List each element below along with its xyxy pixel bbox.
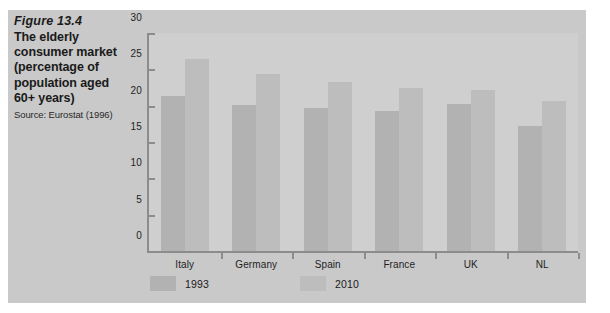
bar-germany-2010: [256, 74, 280, 251]
bar-nl-1993: [518, 126, 542, 251]
bar-italy-2010: [185, 59, 209, 251]
figure-caption: Figure 13.4 The elderly consumer market …: [14, 14, 126, 121]
bar-uk-1993: [447, 104, 471, 251]
legend-label-2010: 2010: [335, 278, 359, 290]
y-axis-tick-labels: 051015202530: [126, 18, 142, 236]
x-axis-label-italy: Italy: [149, 259, 221, 271]
x-axis-category-labels: ItalyGermanySpainFranceUKNL: [149, 259, 578, 275]
x-axis-label-uk: UK: [435, 259, 507, 271]
y-axis-tick-label: 15: [130, 122, 142, 132]
y-axis-tick-label: 20: [130, 86, 142, 96]
bar-spain-1993: [304, 108, 328, 251]
bar-italy-1993: [161, 96, 185, 252]
bar-uk-2010: [471, 90, 495, 251]
y-axis-tick-label: 10: [130, 158, 142, 168]
x-axis-label-spain: Spain: [292, 259, 364, 271]
x-axis-label-france: France: [364, 259, 436, 271]
bars-layer: [149, 33, 578, 251]
figure-number: Figure 13.4: [14, 14, 126, 29]
legend-entry-1993: 1993: [150, 276, 209, 291]
legend-entry-2010: 2010: [300, 276, 359, 291]
chart-plot-area: 051015202530 ItalyGermanySpainFranceUKNL: [126, 18, 578, 268]
figure-root: Figure 13.4 The elderly consumer market …: [0, 0, 610, 313]
bar-nl-2010: [542, 101, 566, 251]
x-axis-line: [147, 251, 578, 253]
figure-source: Source: Eurostat (1996): [14, 109, 126, 121]
legend-swatch-1993: [150, 276, 176, 291]
bar-spain-2010: [328, 82, 352, 251]
legend-swatch-2010: [300, 276, 326, 291]
x-axis-tick: [578, 253, 580, 259]
figure-title: The elderly consumer market (percentage …: [14, 30, 126, 106]
legend-label-1993: 1993: [185, 278, 209, 290]
bar-france-1993: [375, 111, 399, 251]
y-axis-tick-label: 0: [136, 231, 142, 241]
y-axis-tick-label: 25: [130, 49, 142, 59]
bar-germany-1993: [232, 105, 256, 251]
y-axis-tick-label: 5: [136, 195, 142, 205]
x-axis-label-nl: NL: [507, 259, 579, 271]
x-axis-label-germany: Germany: [221, 259, 293, 271]
bar-france-2010: [399, 88, 423, 251]
y-axis-tick-label: 30: [130, 13, 142, 23]
